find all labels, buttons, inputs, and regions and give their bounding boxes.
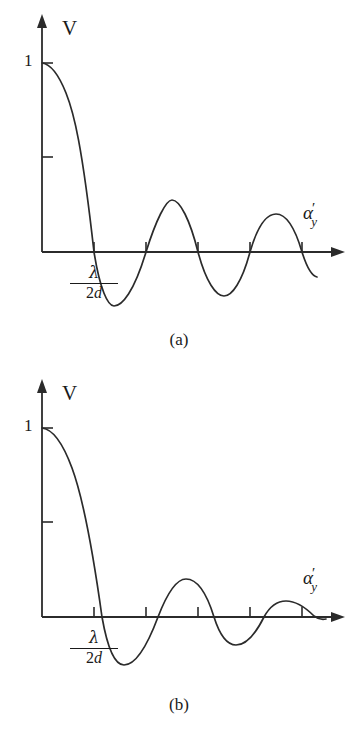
- denominator-d-a: d: [94, 284, 102, 301]
- panel-a: V 1 α′y λ 2d (a): [0, 0, 358, 365]
- denominator-d-b: d: [94, 649, 102, 666]
- x-axis-b: [42, 612, 345, 622]
- y-axis-b: [37, 379, 47, 617]
- caption-b: (b): [0, 695, 358, 715]
- plot-b-svg: [0, 365, 358, 683]
- x-tick-label-lambda-2d-a: λ 2d: [70, 265, 118, 302]
- subscript-y-b: y: [311, 579, 317, 594]
- x-tick-label-lambda-2d-b: λ 2d: [70, 630, 118, 667]
- x-axis-label-b: α′y: [303, 565, 322, 591]
- denominator-b: 2d: [70, 649, 118, 667]
- x-axis-a: [42, 247, 345, 257]
- caption-a: (a): [0, 330, 358, 350]
- y-ticks-a: [42, 63, 53, 157]
- plot-a-svg: [0, 0, 358, 318]
- denominator-a: 2d: [70, 284, 118, 302]
- panel-b: V 1 α′y λ 2d (b): [0, 365, 358, 730]
- y-tick-label-one-b: 1: [24, 417, 33, 434]
- lambda-numerator-a: λ: [70, 265, 118, 283]
- y-axis-a: [37, 14, 47, 252]
- figure-visibility-curves: V 1 α′y λ 2d (a): [0, 0, 358, 730]
- y-axis-label-a: V: [62, 18, 77, 39]
- y-tick-label-one-a: 1: [24, 52, 33, 69]
- y-axis-label-b: V: [62, 383, 77, 404]
- lambda-numerator-b: λ: [70, 630, 118, 648]
- subscript-y-a: y: [311, 214, 317, 229]
- x-axis-label-a: α′y: [303, 200, 322, 226]
- denominator-two-a: 2: [86, 284, 94, 301]
- denominator-two-b: 2: [86, 649, 94, 666]
- y-ticks-b: [42, 428, 53, 522]
